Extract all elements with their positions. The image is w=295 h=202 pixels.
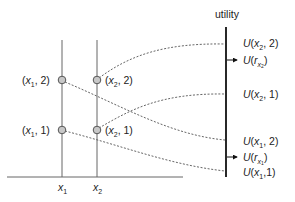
curve-x1-2-to-U <box>65 82 225 140</box>
label-x1-2: (x1, 2) <box>22 74 50 88</box>
x-axis-label-x2: x2 <box>92 181 102 195</box>
curve-x2-2-to-U <box>99 44 225 78</box>
utility-label-x1-2: U(x1, 2) <box>243 135 278 149</box>
x-axis-label-x1: x1 <box>57 181 67 195</box>
node-x1-2 <box>58 76 66 84</box>
utility-label-x1-1: U(x1,1) <box>243 166 276 180</box>
utility-axis-title: utility <box>215 8 240 20</box>
utility-label-x2-2: U(x2, 2) <box>243 37 278 51</box>
label-x2-2: (x2, 2) <box>105 74 133 88</box>
node-x1-1 <box>58 126 66 134</box>
node-x2-2 <box>93 76 101 84</box>
utility-label-x2-1: U(x2, 1) <box>243 88 278 102</box>
utility-mapping-diagram: utility (x1, 2) (x1, 1) (x2, 2) (x2, 1) … <box>0 0 295 202</box>
utility-label-r-x1: U(rx1) <box>243 151 267 166</box>
curve-x1-1-to-U <box>65 131 225 171</box>
label-x1-1: (x1, 1) <box>22 124 50 138</box>
utility-label-r-x2: U(rx2) <box>243 54 267 69</box>
label-x2-1: (x2, 1) <box>105 124 133 138</box>
node-x2-1 <box>93 126 101 134</box>
curve-x2-1-to-U <box>99 94 225 128</box>
